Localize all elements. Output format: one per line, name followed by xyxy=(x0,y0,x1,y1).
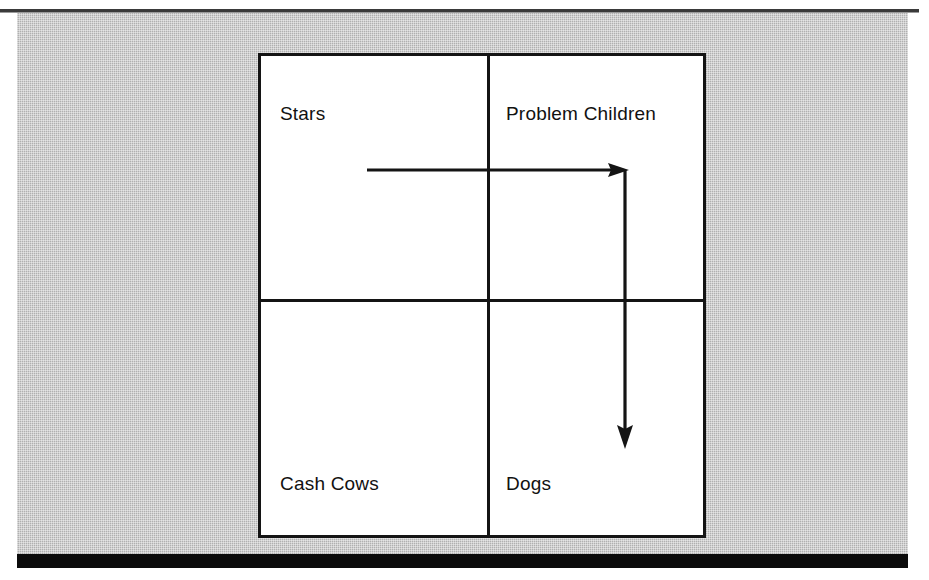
matrix-vertical-divider xyxy=(487,56,490,535)
matrix-horizontal-divider xyxy=(261,299,703,302)
quadrant-label-problem-children: Problem Children xyxy=(506,104,656,123)
scanned-page: Stars Problem Children Cash Cows Dogs xyxy=(0,0,929,580)
migration-arrow-right-head xyxy=(608,163,629,177)
quadrant-label-stars: Stars xyxy=(280,104,325,123)
figure-background: Stars Problem Children Cash Cows Dogs xyxy=(17,13,908,555)
quadrant-label-dogs: Dogs xyxy=(506,474,551,493)
figure-bottom-bar xyxy=(17,554,908,568)
migration-arrow-down-head xyxy=(617,425,633,449)
bcg-matrix: Stars Problem Children Cash Cows Dogs xyxy=(258,53,706,538)
page-top-rule xyxy=(0,9,919,12)
quadrant-label-cash-cows: Cash Cows xyxy=(280,474,379,493)
